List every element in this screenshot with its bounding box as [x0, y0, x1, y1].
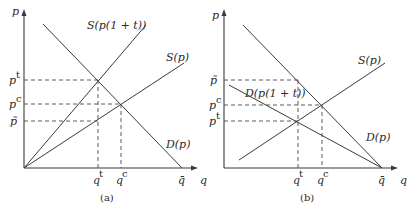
tick-qt: q t	[93, 168, 103, 187]
tick-qc: q c	[116, 168, 128, 187]
tick-pt: p t	[209, 110, 220, 128]
label-supply: S(p)	[358, 54, 381, 67]
panel-a: p q S(p(1 + t)) S(p) D(p) p t p c p̃ q	[9, 5, 207, 203]
svg-text:t: t	[16, 69, 20, 80]
supply-curve	[239, 63, 385, 160]
x-axis-arrow-icon	[391, 166, 398, 171]
svg-text:t: t	[299, 168, 303, 179]
x-axis-arrow-icon	[191, 166, 198, 171]
svg-text:q̄: q̄	[378, 174, 385, 187]
demand-curve	[43, 24, 182, 168]
svg-text:p: p	[209, 99, 216, 112]
y-axis-label: p	[12, 5, 19, 18]
tick-pt: p t	[9, 69, 20, 87]
tick-qt: q t	[293, 168, 303, 187]
supply-curve	[24, 63, 184, 168]
tick-ptilde: p̃	[10, 115, 17, 128]
svg-text:q̄: q̄	[178, 174, 185, 187]
label-demand: D(p)	[165, 138, 190, 151]
caption-a: (a)	[100, 192, 114, 203]
svg-text:c: c	[122, 168, 128, 179]
tick-qbar: q̄	[378, 174, 385, 187]
tick-ptilde: p̃	[210, 74, 217, 87]
tick-pc: p c	[9, 93, 22, 111]
caption-b: (b)	[300, 192, 314, 203]
y-axis-label: p	[212, 9, 219, 22]
supply-with-tax-curve	[24, 25, 146, 168]
svg-text:t: t	[99, 168, 103, 179]
svg-text:p̃: p̃	[10, 115, 17, 128]
svg-text:p: p	[209, 115, 216, 128]
svg-text:c: c	[216, 94, 222, 105]
svg-text:c: c	[16, 93, 22, 104]
x-axis-label: q	[200, 174, 207, 187]
tick-qbar: q̄	[178, 174, 185, 187]
y-axis-arrow-icon	[222, 9, 227, 16]
svg-text:t: t	[216, 110, 220, 121]
x-axis-label: q	[400, 174, 407, 187]
svg-text:c: c	[323, 168, 329, 179]
label-demand: D(p)	[365, 131, 390, 144]
label-supply-with-tax: S(p(1 + t))	[87, 19, 146, 32]
panel-b: p q S(p) D(p(1 + t)) D(p) p̃ p c p t q	[209, 9, 407, 203]
label-demand-with-tax: D(p(1 + t))	[244, 87, 306, 100]
svg-text:p: p	[9, 98, 16, 111]
y-axis-arrow-icon	[22, 9, 27, 16]
tick-qc: q c	[317, 168, 329, 187]
svg-text:p̃: p̃	[210, 74, 217, 87]
tax-incidence-diagram: p q S(p(1 + t)) S(p) D(p) p t p c p̃ q	[0, 0, 407, 205]
svg-text:p: p	[9, 74, 16, 87]
label-supply: S(p)	[166, 51, 189, 64]
